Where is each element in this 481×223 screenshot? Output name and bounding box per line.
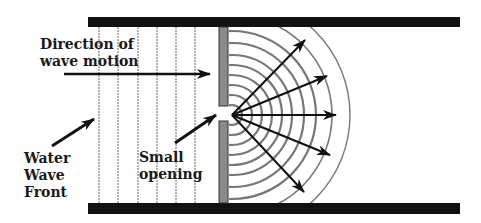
opening-label-line1: Small	[139, 150, 184, 165]
wave-front-label-line1: Water	[24, 151, 70, 166]
wavefront-pointer-arrow	[52, 119, 94, 146]
diffraction-diagram	[0, 0, 481, 223]
wave-front-label-line3: Front	[24, 185, 67, 200]
direction-label-line1: Direction of	[40, 37, 134, 52]
opening-label-line2: opening	[139, 167, 203, 182]
wave-front-label-line2: Wave	[24, 168, 65, 183]
barrier-upper	[219, 27, 228, 106]
bottom-wall	[88, 203, 460, 214]
barrier-lower	[219, 121, 228, 203]
top-wall	[88, 17, 460, 27]
diffraction-rays	[232, 40, 336, 192]
direction-label-line2: wave motion	[40, 54, 139, 69]
diffracted-wavefronts	[114, 0, 350, 223]
